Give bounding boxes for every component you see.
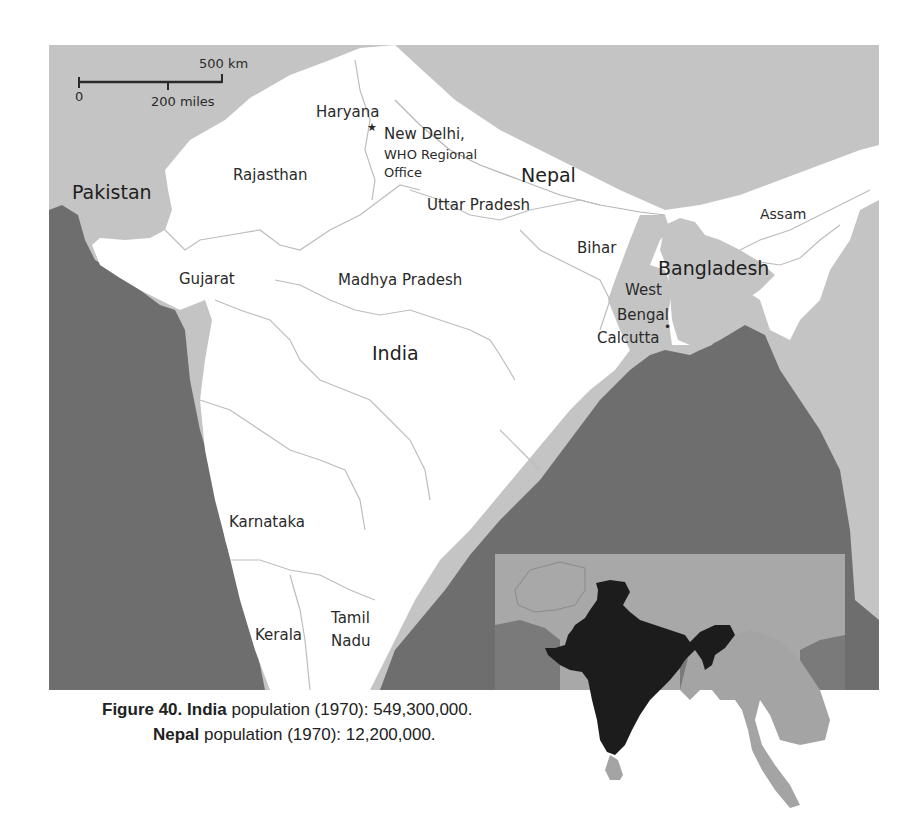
label-tamil: Tamil bbox=[331, 610, 370, 627]
label-calcutta: Calcutta bbox=[597, 330, 660, 347]
caption-india-name: India bbox=[187, 700, 227, 719]
label-bangladesh: Bangladesh bbox=[658, 258, 769, 279]
label-nepal: Nepal bbox=[521, 165, 576, 186]
new-delhi-star-icon: ★ bbox=[367, 122, 377, 134]
label-uttar-pradesh: Uttar Pradesh bbox=[427, 197, 530, 214]
inset-sri-lanka bbox=[605, 755, 623, 780]
label-bihar: Bihar bbox=[577, 240, 616, 257]
label-nadu: Nadu bbox=[331, 633, 370, 650]
label-rajasthan: Rajasthan bbox=[233, 167, 308, 184]
label-india: India bbox=[372, 343, 419, 364]
calcutta-dot-icon: • bbox=[664, 321, 671, 334]
figure-caption-line2: Nepal population (1970): 12,200,000. bbox=[153, 723, 436, 746]
label-madhya-pradesh: Madhya Pradesh bbox=[338, 272, 462, 289]
label-pakistan: Pakistan bbox=[72, 182, 152, 203]
label-bengal: Bengal bbox=[617, 307, 669, 324]
label-assam: Assam bbox=[760, 207, 806, 222]
label-west: West bbox=[625, 282, 662, 299]
label-kerala: Kerala bbox=[255, 627, 302, 644]
label-karnataka: Karnataka bbox=[229, 514, 305, 531]
label-haryana: Haryana bbox=[316, 104, 379, 121]
scale-km-label: 500 km bbox=[199, 57, 248, 71]
caption-nepal-text: population (1970): 12,200,000. bbox=[199, 725, 435, 744]
scale-miles-label: 200 miles bbox=[151, 95, 215, 109]
caption-india-text: population (1970): 549,300,000. bbox=[227, 700, 473, 719]
caption-nepal-name: Nepal bbox=[153, 725, 199, 744]
label-gujarat: Gujarat bbox=[179, 271, 235, 288]
label-new-delhi: New Delhi, bbox=[384, 126, 465, 143]
label-who-regional: WHO Regional bbox=[384, 148, 477, 162]
caption-figure-label: Figure 40. bbox=[102, 700, 182, 719]
figure-caption-line1: Figure 40. India population (1970): 549,… bbox=[102, 698, 472, 721]
label-who-office: Office bbox=[384, 166, 422, 180]
scale-zero-label: 0 bbox=[75, 90, 83, 104]
